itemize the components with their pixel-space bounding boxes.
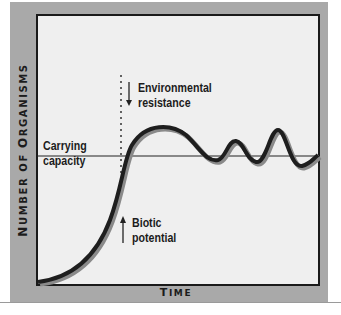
x-axis-label: TIME — [160, 286, 192, 299]
environmental-resistance-label: Environmental resistance — [138, 81, 212, 111]
up-arrow-head-icon — [120, 216, 126, 223]
y-axis-label: NUMBER OF ORGANISMS — [16, 63, 30, 236]
carrying-capacity-label: Carrying capacity — [43, 139, 87, 169]
down-arrow-head-icon — [126, 100, 132, 106]
biotic-potential-label: Biotic potential — [132, 216, 176, 246]
